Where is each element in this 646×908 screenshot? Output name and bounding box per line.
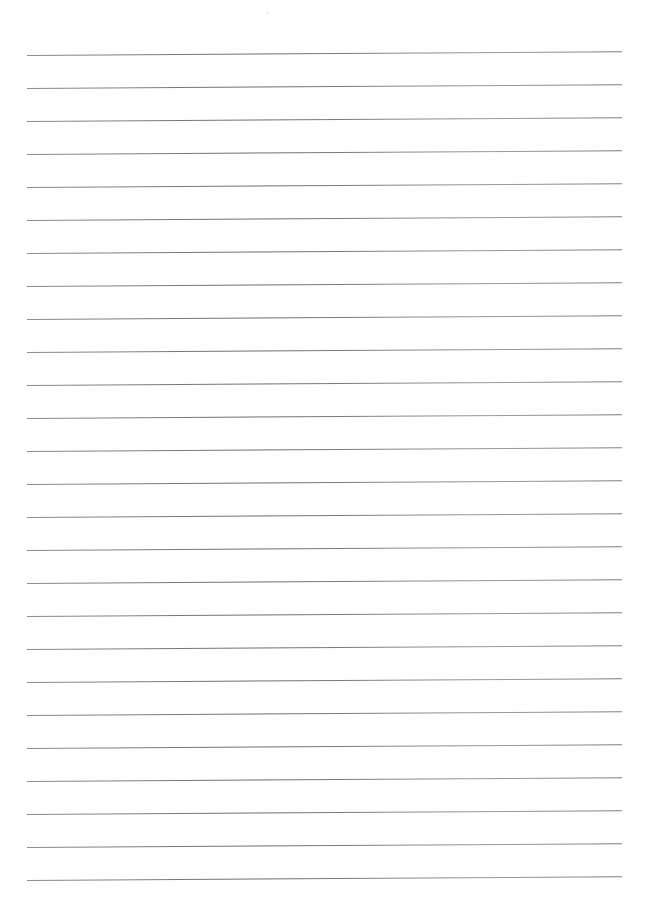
ruled-line: [27, 414, 622, 419]
ruled-line: [27, 150, 622, 155]
ruled-line: [27, 711, 622, 716]
ruled-line: [27, 447, 622, 452]
paper-speck: [266, 11, 269, 14]
ruled-line: [27, 117, 622, 122]
ruled-line: [27, 249, 622, 254]
ruled-line: [27, 678, 622, 683]
ruled-line: [27, 744, 622, 749]
ruled-line: [27, 183, 622, 188]
ruled-line: [27, 546, 622, 551]
ruled-line: [27, 480, 622, 485]
ruled-line: [27, 612, 622, 617]
ruled-line: [27, 348, 622, 353]
ruled-line: [27, 51, 622, 56]
ruled-line: [27, 843, 622, 848]
ruled-line: [27, 876, 622, 881]
lined-paper-page: [0, 0, 646, 908]
ruled-line: [27, 381, 622, 386]
ruled-line: [27, 84, 622, 89]
ruled-line: [27, 315, 622, 320]
ruled-line: [27, 810, 622, 815]
ruled-line: [27, 216, 622, 221]
ruled-line: [27, 645, 622, 650]
ruled-line: [27, 282, 622, 287]
ruled-line: [27, 579, 622, 584]
ruled-line: [27, 777, 622, 782]
ruled-line: [27, 513, 622, 518]
